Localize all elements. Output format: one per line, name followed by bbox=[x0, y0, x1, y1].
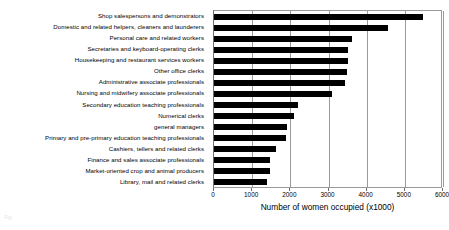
bar-row bbox=[214, 176, 441, 187]
bar-row bbox=[214, 44, 441, 55]
bar-row bbox=[214, 132, 441, 143]
category-label: general managers bbox=[0, 121, 208, 132]
category-label: Housekeeping and restaurant services wor… bbox=[0, 55, 208, 66]
category-label: Administrative associate professionals bbox=[0, 77, 208, 88]
bar bbox=[214, 80, 345, 86]
category-label: Other office clerks bbox=[0, 66, 208, 77]
category-label: Nursing and midwifery associate professi… bbox=[0, 88, 208, 99]
bar-row bbox=[214, 77, 441, 88]
bar-row bbox=[214, 154, 441, 165]
bar-row bbox=[214, 55, 441, 66]
bar-row bbox=[214, 99, 441, 110]
category-label: Market-oriented crop and animal producer… bbox=[0, 166, 208, 177]
bar bbox=[214, 14, 423, 20]
bar bbox=[214, 124, 287, 130]
x-tick-label: 4000 bbox=[359, 191, 373, 198]
bar bbox=[214, 113, 294, 119]
category-label: Cashiers, tellers and related clerks bbox=[0, 144, 208, 155]
x-axis: 0100020003000400050006000 bbox=[213, 188, 442, 202]
bar-row bbox=[214, 121, 441, 132]
bar bbox=[214, 168, 270, 174]
bar bbox=[214, 69, 347, 75]
bar-row bbox=[214, 11, 441, 22]
bar bbox=[214, 47, 348, 53]
category-label: Finance and sales associate professional… bbox=[0, 155, 208, 166]
bar-row bbox=[214, 165, 441, 176]
plot-area bbox=[213, 10, 442, 188]
bar bbox=[214, 36, 352, 42]
category-label: Numerical clerks bbox=[0, 110, 208, 121]
x-tick-label: 6000 bbox=[435, 191, 449, 198]
bar-row bbox=[214, 110, 441, 121]
bar bbox=[214, 157, 270, 163]
bar bbox=[214, 146, 276, 152]
bar bbox=[214, 102, 298, 108]
x-tick-label: 3000 bbox=[320, 191, 334, 198]
category-label: Domestic and related helpers, cleaners a… bbox=[0, 21, 208, 32]
bar bbox=[214, 58, 348, 64]
bar bbox=[214, 135, 286, 141]
bar-group bbox=[214, 11, 441, 187]
bar-row bbox=[214, 22, 441, 33]
category-label: Primary and pre-primary education teachi… bbox=[0, 132, 208, 143]
category-label-column: Shop salespersons and demonstratorsDomes… bbox=[0, 10, 208, 188]
x-tick-label: 1000 bbox=[244, 191, 258, 198]
gridline bbox=[443, 11, 444, 187]
category-label: Library, mail and related clerks bbox=[0, 177, 208, 188]
bar-row bbox=[214, 66, 441, 77]
bar bbox=[214, 179, 267, 185]
category-label: Personal care and related workers bbox=[0, 32, 208, 43]
category-label: Shop salespersons and demonstrators bbox=[0, 10, 208, 21]
bar-row bbox=[214, 33, 441, 44]
bar-row bbox=[214, 88, 441, 99]
category-label: Secondary education teaching professiona… bbox=[0, 99, 208, 110]
bar bbox=[214, 25, 388, 31]
bar bbox=[214, 91, 332, 97]
x-tick-label: 0 bbox=[211, 191, 215, 198]
category-label: Secretaries and keyboard-operating clerk… bbox=[0, 43, 208, 54]
x-axis-label: Number of women occupied (x1000) bbox=[213, 202, 442, 212]
x-tick-label: 2000 bbox=[282, 191, 296, 198]
bar-row bbox=[214, 143, 441, 154]
x-tick-label: 5000 bbox=[397, 191, 411, 198]
figure-caption: Fig. bbox=[4, 214, 13, 220]
